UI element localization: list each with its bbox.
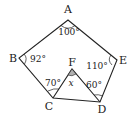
angle-label-d: 60°: [86, 80, 102, 90]
angle-label-c: 70°: [45, 78, 61, 88]
angle-label-a: 100°: [58, 27, 80, 37]
vertex-label-a: A: [63, 3, 73, 16]
vertex-label-f: F: [68, 56, 76, 69]
vertex-label-c: C: [45, 100, 53, 113]
angle-label-f-x: x: [68, 78, 73, 88]
vertex-label-e: E: [119, 54, 127, 67]
angle-label-b: 92°: [30, 54, 46, 64]
vertex-label-b: B: [9, 52, 17, 65]
angle-arc-b: [24, 54, 26, 64]
angle-label-e: 110°: [86, 61, 108, 71]
angle-arc-e: [109, 55, 112, 65]
vertex-label-d: D: [98, 103, 107, 116]
geometry-diagram: A B C D E F 100° 92° 110° 70° 60° x: [0, 0, 135, 120]
